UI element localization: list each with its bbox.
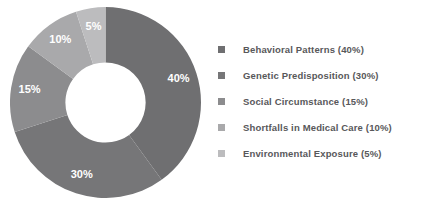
legend-item[interactable]: Social Circumstance (15%) <box>218 88 423 114</box>
legend-item-label: Behavioral Patterns (40%) <box>243 44 364 55</box>
donut-chart-svg: 40%30%15%10%5% <box>10 7 201 198</box>
donut-chart-figure: 40%30%15%10%5% Behavioral Patterns (40%)… <box>0 0 425 208</box>
legend-item-label: Environmental Exposure (5%) <box>243 148 382 159</box>
legend-swatch-icon <box>218 72 225 79</box>
legend-item-label: Genetic Predisposition (30%) <box>243 70 379 81</box>
donut-chart-plot-area: 40%30%15%10%5% <box>10 7 201 198</box>
legend-swatch-icon <box>218 124 225 131</box>
legend-swatch-icon <box>218 150 225 157</box>
legend-swatch-icon <box>218 46 225 53</box>
legend-item[interactable]: Genetic Predisposition (30%) <box>218 62 423 88</box>
legend-item[interactable]: Shortfalls in Medical Care (10%) <box>218 114 423 140</box>
donut-slice-value-label: 15% <box>19 83 41 95</box>
legend-item-label: Shortfalls in Medical Care (10%) <box>243 122 392 133</box>
donut-slice-value-label: 40% <box>168 72 190 84</box>
chart-legend: Behavioral Patterns (40%)Genetic Predisp… <box>218 36 423 166</box>
legend-item[interactable]: Environmental Exposure (5%) <box>218 140 423 166</box>
donut-slice-value-label: 10% <box>49 33 71 45</box>
legend-item[interactable]: Behavioral Patterns (40%) <box>218 36 423 62</box>
donut-slice-group <box>10 7 201 198</box>
legend-item-label: Social Circumstance (15%) <box>243 96 368 107</box>
legend-swatch-icon <box>218 98 225 105</box>
donut-slice-value-label: 5% <box>86 20 102 32</box>
donut-slice-value-label: 30% <box>71 168 93 180</box>
